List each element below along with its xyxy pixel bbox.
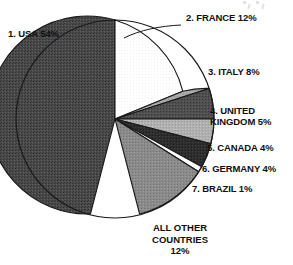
scan-speckle-artifact (256, 1, 259, 4)
slice-label-all-other-countries-line1: ALL OTHER (128, 222, 232, 234)
slice-label-united-kingdom: 4. UNITED KINGDOM 5% (210, 105, 288, 127)
slice-label-all-other-countries-line3: 12% (128, 245, 232, 257)
slice-label-germany: 6. GERMANY 4% (202, 163, 276, 174)
pie-slice-usa (0, 16, 115, 214)
slice-label-france: 2. FRANCE 12% (186, 12, 257, 23)
pie-chart: 1. USA 54% 2. FRANCE 12% 3. ITALY 8% 4. … (0, 0, 293, 265)
slice-label-usa: 1. USA 54% (8, 28, 59, 39)
scan-speckle-artifact (243, 1, 246, 4)
slice-label-italy: 3. ITALY 8% (208, 66, 260, 77)
slice-label-all-other-countries-line2: COUNTRIES (128, 234, 232, 246)
slice-label-united-kingdom-line1: 4. UNITED (210, 105, 255, 116)
slice-label-canada: 5. CANADA 4% (207, 142, 274, 153)
slice-label-all-other-countries: ALL OTHER COUNTRIES 12% (128, 222, 232, 257)
slice-label-united-kingdom-line2: KINGDOM 5% (210, 116, 271, 127)
slice-label-brazil: 7. BRAZIL 1% (192, 183, 252, 194)
